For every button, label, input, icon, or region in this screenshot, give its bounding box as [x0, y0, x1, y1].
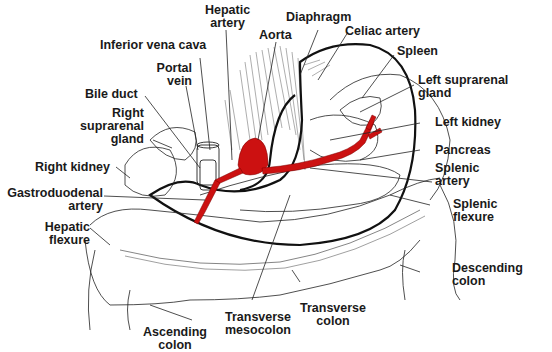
label-diaphragm: Diaphragm	[286, 11, 351, 24]
colon-lower-outline	[85, 240, 420, 305]
label-line: artery	[3, 200, 103, 213]
label-left-kidney: Left kidney	[435, 116, 501, 129]
label-portal-vein: Portal vein	[152, 62, 192, 88]
label-line: vein	[152, 75, 192, 88]
label-pancreas: Pancreas	[435, 144, 491, 157]
label-ascending-colon: Ascending colon	[140, 326, 210, 352]
label-line: colon	[452, 275, 523, 288]
label-right-suprarenal-gland: Right suprarenal gland	[76, 107, 144, 146]
label-bile-duct: Bile duct	[85, 88, 138, 101]
label-left-suprarenal-gland: Left suprarenal gland	[418, 74, 508, 100]
label-line: artery	[435, 175, 479, 188]
label-spleen: Spleen	[397, 45, 438, 58]
label-transverse-colon: Transverse colon	[296, 302, 370, 328]
ascending-colon-inner	[128, 290, 131, 330]
label-splenic-flexure: Splenic flexure	[453, 198, 497, 224]
label-hepatic-artery: Hepatic artery	[205, 4, 250, 30]
mesocolon-line	[120, 210, 420, 264]
label-gastroduodenal-artery: Gastroduodenal artery	[3, 187, 103, 213]
label-line: flexure	[453, 211, 497, 224]
label-line: artery	[205, 17, 250, 30]
left-suprarenal-outline	[340, 97, 381, 126]
label-inferior-vena-cava: Inferior vena cava	[100, 39, 206, 52]
label-transverse-mesocolon: Transverse mesocolon	[222, 311, 294, 337]
label-aorta: Aorta	[259, 29, 292, 42]
label-line: flexure	[40, 234, 90, 247]
label-right-kidney: Right kidney	[35, 161, 110, 174]
label-celiac-artery: Celiac artery	[345, 25, 420, 38]
anatomy-diagram: Hepatic artery Diaphragm Aorta Celiac ar…	[0, 0, 552, 352]
label-line: colon	[296, 315, 370, 328]
splenic-artery	[262, 120, 374, 174]
label-line: mesocolon	[222, 324, 294, 337]
ascending-colon-outline	[88, 250, 95, 330]
pancreas-outline	[200, 164, 400, 212]
label-hepatic-flexure: Hepatic flexure	[40, 221, 90, 247]
label-descending-colon: Descending colon	[452, 262, 523, 288]
label-line: gland	[418, 87, 508, 100]
right-kidney-outline	[125, 147, 176, 196]
splenic-branch-1	[366, 115, 376, 130]
leader-lines	[90, 30, 432, 320]
label-splenic-artery: Splenic artery	[435, 162, 479, 188]
label-line: colon	[140, 339, 210, 352]
label-line: gland	[76, 133, 144, 146]
